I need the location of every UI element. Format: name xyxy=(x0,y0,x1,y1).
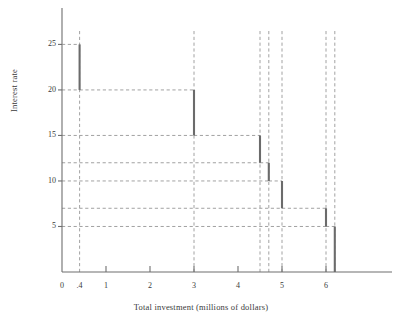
x-tick-label: 2 xyxy=(138,281,162,290)
x-tick-label: 4 xyxy=(226,281,250,290)
x-axis-title: Total investment (millions of dollars) xyxy=(0,302,402,312)
page-footer-strip xyxy=(0,327,402,336)
axes xyxy=(58,8,392,272)
x-tick-label: 1 xyxy=(94,281,118,290)
y-tick-label: 25 xyxy=(32,39,56,48)
x-tick-label: 3 xyxy=(182,281,206,290)
y-tick-label: 15 xyxy=(32,130,56,139)
grid-lines xyxy=(62,31,335,272)
y-tick-label: 20 xyxy=(32,85,56,94)
x-tick-label: .4 xyxy=(68,281,92,290)
step-bars xyxy=(62,44,335,272)
chart-figure: 510152025 0.4123456 Interest rate Total … xyxy=(0,0,402,336)
y-axis-title: Interest rate xyxy=(9,32,19,112)
x-tick-label: 5 xyxy=(270,281,294,290)
y-tick-label: 5 xyxy=(32,221,56,230)
x-tick-label: 6 xyxy=(314,281,338,290)
y-axis-title-text: Interest rate xyxy=(9,32,19,112)
y-tick-label: 10 xyxy=(32,176,56,185)
